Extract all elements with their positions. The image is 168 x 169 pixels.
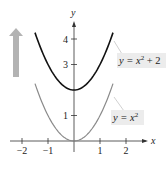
y-tick-label: 4 (63, 34, 68, 45)
top-curve-label: y = x2 + 2 (118, 54, 161, 66)
top-curve-leader-line (114, 41, 122, 54)
chart: x y −2−112134 y = x2 + 2 y = x2 (0, 0, 168, 169)
x-axis-arrow-icon (142, 139, 148, 143)
y-axis-label: y (70, 7, 76, 18)
x-tick-label: −2 (17, 145, 28, 156)
x-axis-label: x (150, 135, 156, 146)
shift-up-arrow-icon (9, 28, 23, 77)
bottom-curve-leader-line (114, 97, 124, 111)
y-tick-label: 3 (63, 59, 68, 70)
y-axis-arrow-icon (72, 21, 76, 27)
y-tick-label: 1 (63, 110, 68, 121)
x-tick-label: −1 (43, 145, 54, 156)
x-tick-label: 2 (124, 145, 129, 156)
x-tick-label: 1 (98, 145, 103, 156)
